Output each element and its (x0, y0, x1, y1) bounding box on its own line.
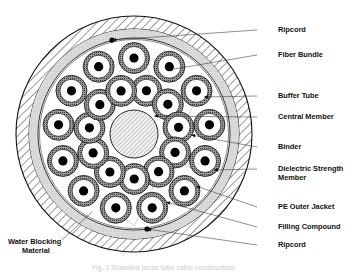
label-central-member: Central Member (278, 112, 334, 121)
buffer-tube (190, 145, 221, 176)
fiber-bundle (79, 186, 88, 195)
fiber-bundle (95, 100, 104, 109)
fiber-bundle (192, 86, 201, 95)
fiber-bundle (130, 174, 139, 183)
buffer-tube (154, 51, 185, 82)
buffer-tube (43, 109, 74, 140)
fiber-bundle (111, 203, 120, 212)
cable-cross-section-diagram: RipcordFiber BundleBuffer TubeCentral Me… (0, 0, 356, 273)
fiber-bundle (200, 156, 209, 165)
fiber-bundle (174, 123, 183, 132)
fiber-bundle (54, 120, 63, 129)
fiber-bundle (58, 156, 67, 165)
label-water-blocking-material-line2: Material (22, 246, 50, 255)
fiber-bundle (148, 203, 157, 212)
buffer-tube (194, 109, 225, 140)
fiber-bundle (142, 86, 151, 95)
central-member (110, 110, 158, 158)
label-ripcord-top: Ripcord (278, 25, 306, 34)
buffer-tube (119, 43, 150, 74)
fiber-bundle (67, 86, 76, 95)
label-fiber-bundle: Fiber Bundle (278, 50, 323, 59)
buffer-tube (181, 75, 212, 106)
figure-container: RipcordFiber BundleBuffer TubeCentral Me… (0, 0, 356, 273)
buffer-tube (169, 175, 200, 206)
fiber-bundle (105, 167, 114, 176)
label-water-blocking-material-line1: Water Blocking (8, 237, 62, 246)
buffer-tube (100, 192, 131, 223)
fiber-bundle (170, 148, 179, 157)
label-binder: Binder (278, 142, 301, 151)
label-ripcord-bottom: Ripcord (278, 240, 306, 249)
buffer-tube (56, 75, 87, 106)
fiber-bundle (116, 86, 125, 95)
fiber-bundle (154, 167, 163, 176)
figure-caption: Fig. 1 Stranded loose tube cable constru… (92, 264, 235, 272)
fiber-bundle (129, 53, 138, 62)
fiber-bundle (163, 100, 172, 109)
label-dielectric-strength-member-line2: Member (278, 173, 306, 182)
buffer-tube (47, 145, 78, 176)
buffer-tube (106, 75, 137, 106)
fiber-bundle (94, 62, 103, 71)
fiber-bundle (85, 123, 94, 132)
label-pe-outer-jacket: PE Outer Jacket (278, 202, 335, 211)
label-dielectric-strength-member-line1: Dielectric Strength (278, 164, 344, 173)
buffer-tube (137, 192, 168, 223)
fiber-bundle (180, 186, 189, 195)
fiber-bundle (89, 148, 98, 157)
label-buffer-tube: Buffer Tube (278, 91, 319, 100)
buffer-tube (68, 175, 99, 206)
fiber-bundle (205, 120, 214, 129)
label-filling-compound: Filling Compound (278, 222, 341, 231)
buffer-tube (83, 51, 114, 82)
